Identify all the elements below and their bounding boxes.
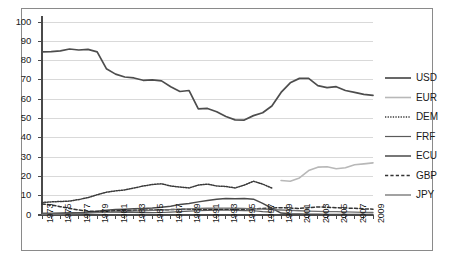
y-axis-tick-label: 70 <box>5 74 31 84</box>
x-axis-tick-label: 1977 <box>83 204 92 223</box>
x-axis-tick-label: 1995 <box>248 204 257 223</box>
y-axis-tick-label: 10 <box>5 190 31 200</box>
series-line-usd <box>42 49 373 120</box>
y-axis-tick-label: 20 <box>5 171 31 181</box>
legend-label-gbp: GBP <box>416 170 437 181</box>
x-axis-tick-label: 1989 <box>193 204 202 223</box>
series-group <box>42 49 373 214</box>
x-axis-tick-label: 1975 <box>64 204 73 223</box>
tick-marks-group <box>38 22 373 219</box>
x-axis-tick-label: 1973 <box>46 204 55 223</box>
legend-label-eur: EUR <box>416 92 437 103</box>
y-axis-tick-label: 50 <box>5 113 31 123</box>
y-axis-tick-label: 0 <box>5 210 31 220</box>
chart-container: 0102030405060708090100 19731975197719791… <box>0 0 454 268</box>
x-axis-tick-label: 2007 <box>359 204 368 223</box>
legend-label-dem: DEM <box>416 111 438 122</box>
x-axis-tick-label: 1979 <box>101 204 110 223</box>
x-axis-tick-label: 1981 <box>120 204 129 223</box>
chart-canvas <box>0 0 454 268</box>
x-axis-tick-label: 1999 <box>285 204 294 223</box>
y-axis-tick-label: 80 <box>5 55 31 65</box>
y-axis-tick-label: 90 <box>5 36 31 46</box>
y-axis-tick-label: 30 <box>5 152 31 162</box>
x-axis-tick-label: 1997 <box>267 204 276 223</box>
y-axis-tick-label: 100 <box>5 17 31 27</box>
x-axis-tick-label: 1987 <box>175 204 184 223</box>
x-axis-tick-label: 2009 <box>377 204 386 223</box>
x-axis-tick-label: 1983 <box>138 204 147 223</box>
x-axis-tick-label: 1985 <box>156 204 165 223</box>
legend-label-usd: USD <box>416 72 437 83</box>
x-axis-tick-label: 2001 <box>303 204 312 223</box>
y-axis-tick-label: 40 <box>5 132 31 142</box>
legend-swatch-group <box>385 78 411 195</box>
legend-label-frf: FRF <box>416 131 435 142</box>
x-axis-tick-label: 2003 <box>322 204 331 223</box>
legend-label-jpy: JPY <box>416 189 434 200</box>
axes-group <box>38 16 373 215</box>
x-axis-tick-label: 1991 <box>212 204 221 223</box>
y-axis-tick-label: 60 <box>5 94 31 104</box>
series-line-eur <box>281 163 373 181</box>
x-axis-tick-label: 2005 <box>340 204 349 223</box>
x-axis-tick-label: 1993 <box>230 204 239 223</box>
legend-label-ecu: ECU <box>416 150 437 161</box>
